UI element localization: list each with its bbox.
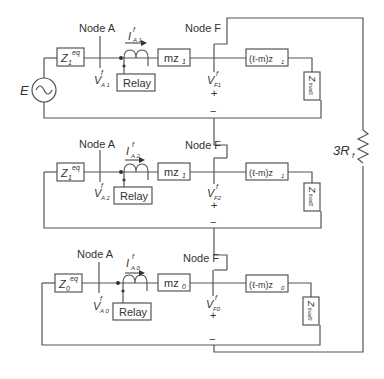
svg-text:mz: mz xyxy=(164,166,179,178)
fault-resistor-sub: f xyxy=(352,151,355,160)
svg-text:A 0: A 0 xyxy=(99,308,109,314)
circuit-diagram: 3R f E Z 1 eq Node A Relay xyxy=(0,0,384,379)
svg-text:1: 1 xyxy=(68,174,72,181)
svg-text:(ℓ-m)z: (ℓ-m)z xyxy=(249,168,273,178)
negative-sequence-network: Z 1 eq Node A Relay I A 2 f V A 2 f mz 1… xyxy=(44,138,321,228)
fault-resistor-label: 3R xyxy=(333,143,350,158)
svg-text:f: f xyxy=(100,295,103,302)
svg-text:f: f xyxy=(101,182,104,189)
svg-text:A 0: A 0 xyxy=(130,265,140,271)
svg-text:f: f xyxy=(101,69,104,76)
svg-text:mz: mz xyxy=(164,52,179,64)
svg-text:eq: eq xyxy=(70,275,78,283)
svg-text:−: − xyxy=(209,333,215,345)
svg-text:f: f xyxy=(216,183,219,190)
svg-text:(ℓ-m)z: (ℓ-m)z xyxy=(249,280,273,290)
node-a-label: Node A xyxy=(77,248,114,260)
svg-text:1: 1 xyxy=(281,173,284,179)
svg-text:I: I xyxy=(126,257,129,269)
node-f-label: Node F xyxy=(183,252,219,264)
svg-text:I: I xyxy=(128,30,131,42)
svg-text:A 1: A 1 xyxy=(132,37,142,43)
svg-text:mz: mz xyxy=(164,277,179,289)
svg-text:load0: load0 xyxy=(307,308,313,320)
node-a-label: Node A xyxy=(79,138,116,150)
svg-text:A 2: A 2 xyxy=(130,153,140,159)
positive-sequence-network: E Z 1 eq Node A Relay I A 1 f V A 1 f mz… xyxy=(20,22,321,118)
svg-text:A 2: A 2 xyxy=(100,195,110,201)
node-f-label: Node F xyxy=(185,139,221,151)
svg-text:+: + xyxy=(210,309,216,321)
svg-text:−: − xyxy=(210,105,216,117)
relay-label: Relay xyxy=(123,77,152,89)
svg-text:Z: Z xyxy=(307,186,317,193)
svg-text:−: − xyxy=(210,216,216,228)
svg-text:f: f xyxy=(132,141,135,148)
svg-text:0: 0 xyxy=(66,285,70,292)
svg-text:+: + xyxy=(211,87,217,99)
svg-text:Relay: Relay xyxy=(119,306,148,318)
svg-text:eq: eq xyxy=(72,49,80,57)
svg-text:eq: eq xyxy=(72,164,80,172)
svg-text:Relay: Relay xyxy=(120,190,149,202)
ct-junction xyxy=(119,56,123,60)
fault-resistor-3rf: 3R f xyxy=(333,130,370,166)
svg-text:Z: Z xyxy=(306,300,316,307)
series-interconnect xyxy=(214,18,363,352)
svg-text:load1: load1 xyxy=(308,83,314,95)
current-arrow-icon xyxy=(141,40,147,46)
source-label: E xyxy=(20,83,29,98)
svg-text:1: 1 xyxy=(281,59,284,65)
svg-text:load2: load2 xyxy=(308,194,314,206)
svg-text:1: 1 xyxy=(182,58,186,65)
node-a-label: Node A xyxy=(79,22,116,34)
svg-text:f: f xyxy=(132,253,135,260)
svg-text:I: I xyxy=(126,145,129,157)
svg-text:f: f xyxy=(215,294,218,301)
svg-text:A 1: A 1 xyxy=(100,82,110,88)
svg-text:f: f xyxy=(216,70,219,77)
svg-text:1: 1 xyxy=(182,172,186,179)
svg-text:0: 0 xyxy=(182,283,186,290)
svg-text:(ℓ-m)z: (ℓ-m)z xyxy=(249,54,273,64)
svg-text:1: 1 xyxy=(68,59,72,66)
zero-sequence-network: Z 0 eq Node A Relay I A 0 f V A 0 f mz 0… xyxy=(42,248,320,345)
node-f-label: Node F xyxy=(185,22,221,34)
svg-text:Z: Z xyxy=(307,75,317,82)
current-arrow-icon xyxy=(139,157,145,163)
svg-text:+: + xyxy=(211,199,217,211)
svg-text:f: f xyxy=(133,26,136,33)
